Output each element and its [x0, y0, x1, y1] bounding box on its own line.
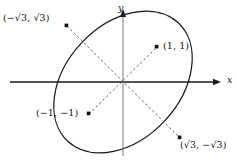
coordinate-axes — [10, 9, 221, 156]
x-axis-label: x — [227, 75, 232, 85]
point-label-upper-right: (1, 1) — [163, 41, 189, 51]
point-label-upper-left: (−√3, √3) — [3, 13, 50, 23]
point-marker-lower-left — [87, 112, 91, 116]
point-marker-upper-left — [65, 24, 69, 28]
point-label-lower-right: (√3, −√3) — [180, 140, 227, 150]
y-axis-label: y — [118, 3, 123, 13]
x-axis-arrowhead — [213, 79, 221, 85]
point-marker-upper-right — [155, 45, 159, 49]
figure-canvas — [0, 0, 239, 161]
math-figure: (−√3, √3) (1, 1) (−1, −1) (√3, −√3) x y — [0, 0, 239, 161]
point-label-lower-left: (−1, −1) — [36, 108, 78, 118]
